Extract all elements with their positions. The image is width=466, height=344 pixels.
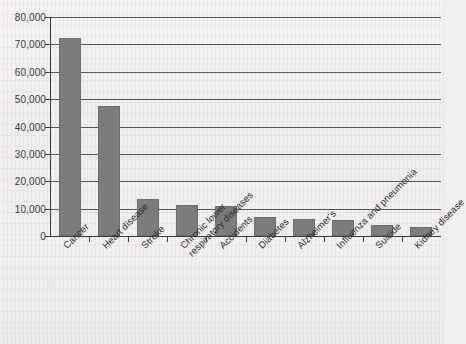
y-axis-tick-label: 50,000 — [0, 94, 46, 105]
y-axis-tick-label: 60,000 — [0, 67, 46, 78]
bar — [98, 106, 120, 236]
y-axis-tick-label: 0 — [0, 231, 46, 242]
y-axis-tick-label: 10,000 — [0, 204, 46, 215]
gridline — [50, 17, 441, 18]
x-axis-tick — [246, 237, 247, 242]
x-axis-tick — [402, 237, 403, 242]
x-axis-tick — [89, 237, 90, 242]
gridline — [50, 44, 441, 45]
gridline — [50, 72, 441, 73]
y-axis-tick-label: 20,000 — [0, 176, 46, 187]
x-axis-tick — [167, 237, 168, 242]
x-axis-tick — [324, 237, 325, 242]
bar — [59, 38, 81, 236]
y-axis-tick-label: 30,000 — [0, 149, 46, 160]
x-axis-tick — [128, 237, 129, 242]
y-axis-line — [50, 17, 51, 237]
gridline — [50, 99, 441, 100]
x-axis-tick — [363, 237, 364, 242]
x-axis-tick — [285, 237, 286, 242]
y-axis-tick-label: 80,000 — [0, 12, 46, 23]
x-axis-category-label: Kidney disease — [412, 196, 466, 250]
y-axis-tick-label: 40,000 — [0, 122, 46, 133]
y-axis-tick-label: 70,000 — [0, 39, 46, 50]
